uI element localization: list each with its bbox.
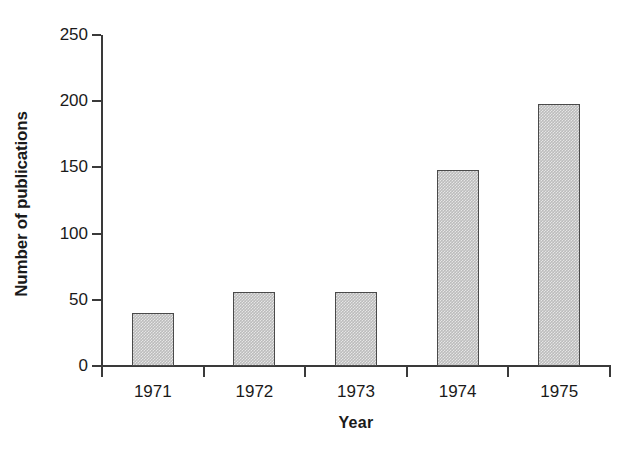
- x-axis-title: Year: [102, 414, 610, 432]
- x-tick-label: 1971: [102, 382, 204, 401]
- bar-chart-figure: Number of publications 050100150200250 1…: [0, 0, 629, 454]
- x-tick-label: 1973: [305, 382, 407, 401]
- bar-1975: [538, 104, 580, 366]
- x-tick-label: 1974: [407, 382, 509, 401]
- x-tick-label: 1972: [203, 382, 305, 401]
- x-tick-label: 1975: [508, 382, 610, 401]
- bar-1971: [132, 313, 174, 366]
- bar-1974: [437, 170, 479, 366]
- bar-1973: [335, 292, 377, 366]
- bar-1972: [233, 292, 275, 366]
